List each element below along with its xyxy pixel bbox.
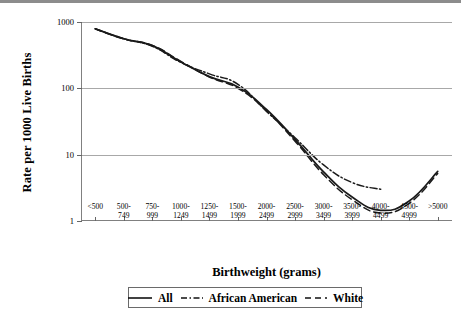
y-axis-line (81, 22, 82, 221)
figure: Rate per 1000 Live Births 1101001000 <50… (0, 0, 461, 316)
legend-item-white: White (304, 292, 363, 304)
legend-item-african-american: African American (180, 292, 297, 304)
y-tick-label: 100 (34, 84, 74, 93)
y-tick-label: 1 (34, 217, 74, 226)
y-axis-title: Rate per 1000 Live Births (20, 13, 35, 233)
y-tick (77, 221, 82, 222)
dash-dot-line-swatch (180, 293, 204, 303)
series-line-african-american (95, 29, 380, 190)
legend-label-all: All (158, 292, 173, 304)
page-top-rule (0, 0, 461, 3)
chart-legend: All African American White (128, 287, 362, 308)
plot-area: 1101001000 (81, 22, 452, 221)
x-tick (438, 217, 439, 221)
dashed-line-swatch (304, 293, 328, 303)
y-tick-label: 10 (34, 150, 74, 159)
x-axis-title: Birthweight (grams) (81, 265, 452, 280)
y-tick (77, 155, 82, 156)
y-tick-label: 1000 (34, 18, 74, 27)
x-tick-label: >5000 (415, 203, 461, 212)
solid-line-swatch (127, 293, 153, 303)
x-tick (95, 217, 96, 221)
series-line-white (95, 29, 437, 213)
series-line-all (95, 29, 437, 211)
gridline (81, 22, 452, 23)
gridline (81, 155, 452, 156)
y-tick (77, 88, 82, 89)
legend-item-all: All (127, 292, 173, 304)
legend-label-african-american: African American (209, 292, 297, 304)
legend-label-white: White (333, 292, 363, 304)
series-lines (81, 22, 452, 221)
gridline (81, 88, 452, 89)
y-tick (77, 22, 82, 23)
